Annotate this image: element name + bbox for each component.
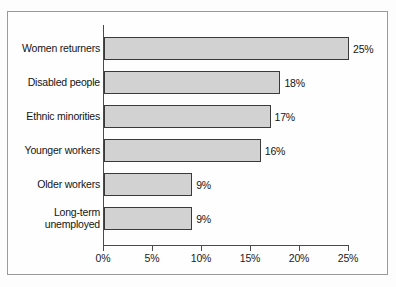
x-tick-5pct	[152, 246, 153, 251]
bar-value-label: 17%	[275, 111, 295, 123]
category-label-line: unemployed	[0, 219, 100, 231]
category-label: Younger workers	[0, 145, 100, 157]
x-tick-label: 0%	[83, 252, 123, 264]
x-tick-label: 5%	[132, 252, 172, 264]
bar-row: Disabled people18%	[0, 71, 396, 94]
x-tick-label: 20%	[279, 252, 319, 264]
x-axis-line	[103, 245, 349, 246]
bar	[104, 207, 192, 230]
x-tick-20pct	[299, 246, 300, 251]
category-label: Women returners	[0, 43, 100, 55]
bar-chart-figure: 0%5%10%15%20%25% Women returners25%Disab…	[0, 0, 396, 287]
bar-value-label: 9%	[196, 213, 211, 225]
bar-row: Long-termunemployed9%	[0, 207, 396, 230]
bar-value-label: 16%	[265, 145, 285, 157]
bar	[104, 139, 261, 162]
x-tick-label: 10%	[181, 252, 221, 264]
bar	[104, 71, 280, 94]
bar-value-label: 9%	[196, 179, 211, 191]
bar-row: Older workers9%	[0, 173, 396, 196]
x-tick-15pct	[250, 246, 251, 251]
bar-row: Women returners25%	[0, 37, 396, 60]
category-label: Long-termunemployed	[0, 207, 100, 230]
bar-value-label: 18%	[284, 77, 304, 89]
bar-value-label: 25%	[353, 43, 373, 55]
bar	[104, 173, 192, 196]
bar-row: Ethnic minorities17%	[0, 105, 396, 128]
x-tick-25pct	[348, 246, 349, 251]
category-label: Older workers	[0, 179, 100, 191]
bar	[104, 37, 349, 60]
category-label: Ethnic minorities	[0, 111, 100, 123]
plot-area: 0%5%10%15%20%25% Women returners25%Disab…	[0, 0, 396, 287]
x-tick-10pct	[201, 246, 202, 251]
x-tick-label: 15%	[230, 252, 270, 264]
bar-row: Younger workers16%	[0, 139, 396, 162]
x-tick-0pct	[103, 246, 104, 251]
bar	[104, 105, 271, 128]
category-label: Disabled people	[0, 77, 100, 89]
x-tick-label: 25%	[328, 252, 368, 264]
category-label-line: Long-term	[0, 207, 100, 219]
